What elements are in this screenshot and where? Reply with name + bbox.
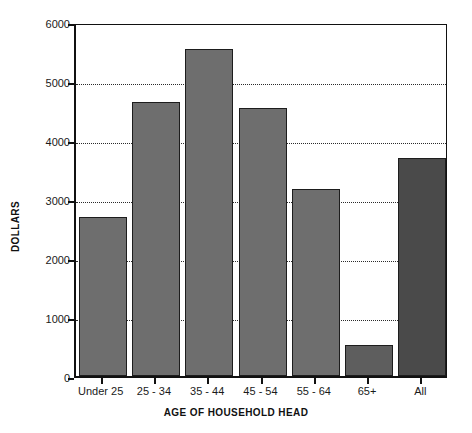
x-tick-mark bbox=[367, 378, 369, 384]
bar[interactable] bbox=[345, 345, 393, 376]
y-tick-label: 6000 bbox=[8, 19, 70, 30]
bar[interactable] bbox=[79, 217, 127, 376]
x-tick-mark bbox=[154, 378, 156, 384]
x-axis-title: AGE OF HOUSEHOLD HEAD bbox=[0, 407, 472, 418]
y-tick-label: 0 bbox=[8, 373, 70, 384]
bar[interactable] bbox=[292, 189, 340, 376]
x-tick-mark bbox=[207, 378, 209, 384]
bar[interactable] bbox=[398, 158, 446, 376]
bar[interactable] bbox=[239, 108, 287, 376]
y-axis-ticks: 0100020003000400050006000 bbox=[0, 0, 70, 433]
bar[interactable] bbox=[185, 49, 233, 376]
x-tick-label: All bbox=[388, 385, 453, 398]
x-tick-mark bbox=[101, 378, 103, 384]
x-tick-mark bbox=[314, 378, 316, 384]
y-tick-label: 4000 bbox=[8, 137, 70, 148]
x-tick-mark bbox=[420, 378, 422, 384]
y-tick-label: 5000 bbox=[8, 78, 70, 89]
bar-chart: DOLLARS 0100020003000400050006000 AGE OF… bbox=[0, 0, 472, 433]
x-tick-mark bbox=[261, 378, 263, 384]
y-tick-label: 1000 bbox=[8, 314, 70, 325]
y-tick-label: 3000 bbox=[8, 196, 70, 207]
gridline bbox=[76, 84, 446, 85]
y-tick-label: 2000 bbox=[8, 255, 70, 266]
y-tick-mark bbox=[68, 378, 74, 380]
plot-area bbox=[74, 24, 447, 378]
bar[interactable] bbox=[132, 102, 180, 376]
